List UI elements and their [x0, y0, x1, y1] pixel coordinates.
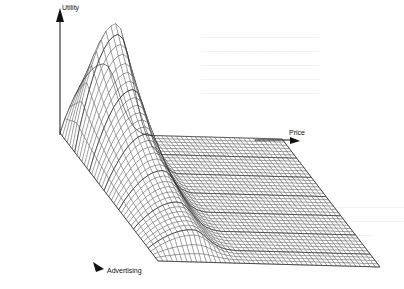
price-axis-arrow-icon [290, 137, 300, 144]
price-axis-label: Price [289, 129, 305, 136]
utility-axis-label: Utility [62, 4, 80, 12]
surface-plot: Utility Price Advertising [0, 0, 404, 289]
advertising-axis-arrow-icon [93, 262, 104, 272]
surface-mesh [60, 24, 380, 267]
advertising-axis-label: Advertising [107, 267, 142, 275]
